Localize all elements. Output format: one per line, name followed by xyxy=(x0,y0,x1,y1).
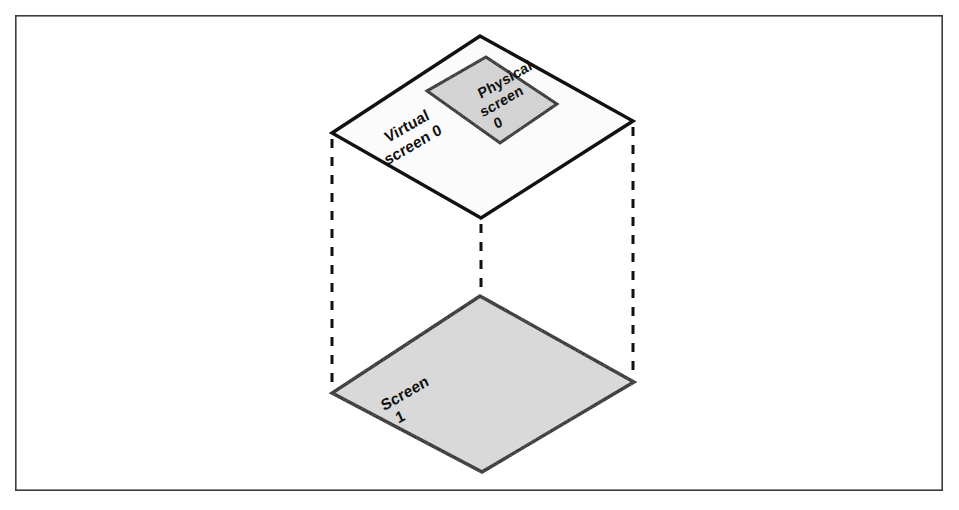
diagram-canvas: Screen 1 Virtual screen 0 Physical scree… xyxy=(0,0,959,510)
figure-root: Screen 1 Virtual screen 0 Physical scree… xyxy=(0,0,959,510)
